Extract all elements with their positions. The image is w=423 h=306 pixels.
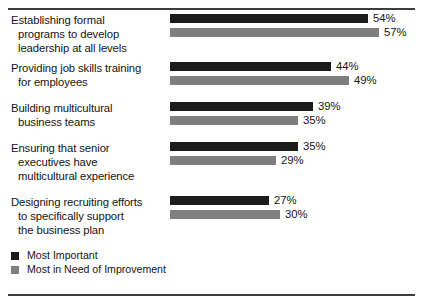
chart-legend: Most Important Most in Need of Improveme… bbox=[11, 250, 251, 278]
bar-value-most-important: 27% bbox=[274, 193, 297, 207]
bar-most-in-need bbox=[170, 28, 379, 37]
bar-pair: 35% 29% bbox=[170, 141, 423, 187]
grouped-bar-chart: Establishing formal programs to develop … bbox=[0, 0, 423, 306]
top-rule bbox=[8, 8, 415, 10]
category-label: Ensuring that senior executives have mul… bbox=[11, 141, 176, 184]
legend-item-most-in-need: Most in Need of Improvement bbox=[11, 264, 251, 277]
bar-group: Ensuring that senior executives have mul… bbox=[0, 141, 423, 187]
bar-most-important bbox=[170, 142, 298, 151]
bar-value-most-in-need: 49% bbox=[354, 73, 377, 87]
bar-value-most-in-need: 35% bbox=[303, 113, 326, 127]
category-label: Providing job skills training for employ… bbox=[11, 61, 176, 89]
bar-group: Establishing formal programs to develop … bbox=[0, 13, 423, 59]
bar-value-most-important: 35% bbox=[303, 139, 326, 153]
bar-most-important bbox=[170, 14, 368, 23]
bottom-rule bbox=[8, 294, 415, 296]
bar-pair: 54% 57% bbox=[170, 13, 423, 59]
bar-most-important bbox=[170, 196, 269, 205]
legend-label: Most Important bbox=[27, 249, 98, 262]
bar-value-most-important: 39% bbox=[318, 99, 341, 113]
bar-group: Designing recruiting efforts to specific… bbox=[0, 195, 423, 241]
bar-pair: 27% 30% bbox=[170, 195, 423, 241]
category-label: Designing recruiting efforts to specific… bbox=[11, 195, 176, 238]
plot-area: Establishing formal programs to develop … bbox=[0, 13, 423, 241]
category-label: Building multicultural business teams bbox=[11, 101, 176, 129]
bar-most-important bbox=[170, 102, 313, 111]
category-label: Establishing formal programs to develop … bbox=[11, 13, 176, 56]
bar-pair: 44% 49% bbox=[170, 61, 423, 93]
bar-group: Providing job skills training for employ… bbox=[0, 61, 423, 93]
bar-most-in-need bbox=[170, 156, 276, 165]
bar-value-most-important: 54% bbox=[373, 11, 396, 25]
legend-label: Most in Need of Improvement bbox=[27, 263, 166, 276]
bar-value-most-in-need: 57% bbox=[384, 25, 407, 39]
bar-group: Building multicultural business teams 39… bbox=[0, 101, 423, 133]
legend-item-most-important: Most Important bbox=[11, 250, 251, 263]
bar-most-in-need bbox=[170, 76, 349, 85]
bar-pair: 39% 35% bbox=[170, 101, 423, 133]
bar-value-most-in-need: 29% bbox=[281, 153, 304, 167]
bar-most-important bbox=[170, 62, 331, 71]
bar-most-in-need bbox=[170, 210, 280, 219]
legend-swatch-icon bbox=[11, 266, 19, 274]
legend-swatch-icon bbox=[11, 252, 19, 260]
bar-most-in-need bbox=[170, 116, 298, 125]
bar-value-most-important: 44% bbox=[336, 59, 359, 73]
bar-value-most-in-need: 30% bbox=[285, 207, 308, 221]
